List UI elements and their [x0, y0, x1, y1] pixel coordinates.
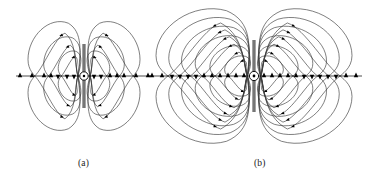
panel-a-caption: (a): [78, 158, 89, 168]
panel-b-caption: (b): [254, 158, 266, 168]
antenna-field-diagram: [0, 0, 373, 176]
feed-point-dot: [253, 75, 256, 78]
feed-point-dot: [83, 75, 86, 78]
